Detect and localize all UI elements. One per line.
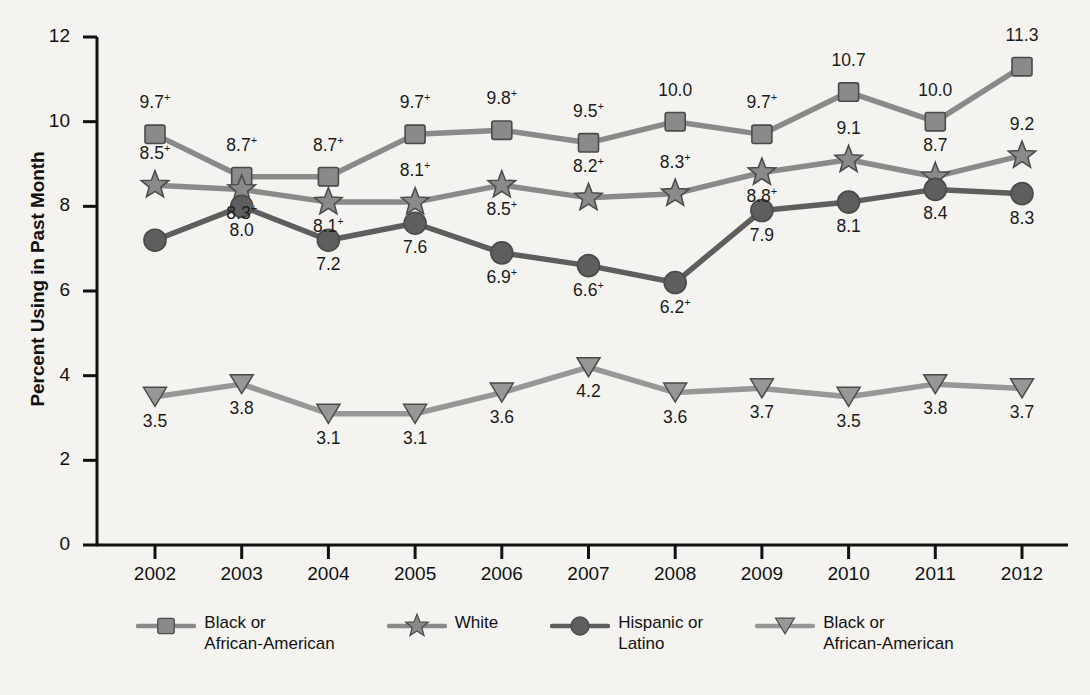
y-axis-tick-label: 0 xyxy=(20,533,70,555)
data-point-label: 8.7+ xyxy=(283,135,373,156)
data-point-label: 8.1+ xyxy=(283,216,373,237)
data-point-label: 9.7+ xyxy=(110,92,200,113)
legend-item[interactable]: White xyxy=(387,612,498,639)
legend-label: White xyxy=(455,612,498,633)
x-axis-tick-label: 2010 xyxy=(804,563,894,585)
legend-label: Black or African-American xyxy=(204,612,334,654)
data-point-label: 10.0 xyxy=(890,80,980,101)
data-point-label: 3.5 xyxy=(804,411,894,432)
y-axis-tick-label: 2 xyxy=(20,448,70,470)
chart-figure: Percent Using in Past Month 024681012 20… xyxy=(0,0,1090,695)
data-point-label: 3.8 xyxy=(890,398,980,419)
legend-label: Hispanic or Latino xyxy=(618,612,703,654)
x-axis-tick-label: 2012 xyxy=(977,563,1067,585)
data-point-label: 8.0 xyxy=(197,220,287,241)
data-point-label: 9.7+ xyxy=(717,92,807,113)
y-axis-tick-label: 6 xyxy=(20,279,70,301)
data-point-label: 8.5+ xyxy=(457,199,547,220)
legend-triangle-down-icon xyxy=(755,613,815,639)
x-axis-tick-label: 2011 xyxy=(890,563,980,585)
y-axis-tick-label: 12 xyxy=(20,25,70,47)
chart-legend: Black or African-AmericanWhiteHispanic o… xyxy=(0,612,1090,654)
data-point-label: 3.5 xyxy=(110,411,200,432)
legend-label: Black or African-American xyxy=(823,612,953,654)
legend-circle-icon xyxy=(550,613,610,639)
data-point-label: 3.1 xyxy=(370,428,460,449)
y-axis-tick-label: 10 xyxy=(20,110,70,132)
data-point-label: 10.7 xyxy=(804,50,894,71)
data-point-label: 7.6 xyxy=(370,237,460,258)
data-point-label: 8.7 xyxy=(890,135,980,156)
x-axis-tick-label: 2005 xyxy=(370,563,460,585)
data-point-label: 8.5+ xyxy=(110,143,200,164)
data-point-label: 3.6 xyxy=(630,407,720,428)
data-point-label: 6.6+ xyxy=(544,280,634,301)
x-axis-tick-label: 2007 xyxy=(544,563,634,585)
legend-star-icon xyxy=(387,613,447,639)
legend-item[interactable]: Black or African-American xyxy=(136,612,334,654)
x-axis-tick-label: 2009 xyxy=(717,563,807,585)
data-point-label: 4.2 xyxy=(544,381,634,402)
data-point-label: 3.7 xyxy=(977,402,1067,423)
x-axis-tick-label: 2002 xyxy=(110,563,200,585)
data-point-label: 8.4 xyxy=(890,203,980,224)
y-axis-tick-label: 4 xyxy=(20,364,70,386)
data-point-label: 8.1 xyxy=(804,216,894,237)
data-point-label: 8.1+ xyxy=(370,160,460,181)
legend-item[interactable]: Black or African-American xyxy=(755,612,953,654)
data-point-label: 9.8+ xyxy=(457,88,547,109)
x-axis-tick-label: 2004 xyxy=(283,563,373,585)
data-point-label: 6.2+ xyxy=(630,297,720,318)
data-point-label: 9.7+ xyxy=(370,92,460,113)
data-point-label: 3.8 xyxy=(197,398,287,419)
data-point-label: 7.9 xyxy=(717,225,807,246)
legend-item[interactable]: Hispanic or Latino xyxy=(550,612,703,654)
legend-square-icon xyxy=(136,613,196,639)
data-point-label: 8.3+ xyxy=(630,152,720,173)
data-point-label: 10.0 xyxy=(630,80,720,101)
data-point-label: 8.2+ xyxy=(544,156,634,177)
data-point-label: 6.9+ xyxy=(457,267,547,288)
data-point-label: 3.7 xyxy=(717,402,807,423)
data-point-label: 9.1 xyxy=(804,118,894,139)
x-axis-tick-label: 2006 xyxy=(457,563,547,585)
data-point-label: 9.5+ xyxy=(544,101,634,122)
data-point-label: 9.2 xyxy=(977,114,1067,135)
x-axis-tick-label: 2003 xyxy=(197,563,287,585)
data-point-label: 11.3 xyxy=(977,25,1067,46)
x-axis-tick-label: 2008 xyxy=(630,563,720,585)
data-point-label: 3.6 xyxy=(457,407,547,428)
data-point-label: 7.2 xyxy=(283,254,373,275)
data-point-label: 8.3 xyxy=(977,208,1067,229)
data-point-label: 3.1 xyxy=(283,428,373,449)
data-point-label: 8.7+ xyxy=(197,135,287,156)
y-axis-tick-label: 8 xyxy=(20,194,70,216)
data-point-label: 8.8+ xyxy=(717,186,807,207)
